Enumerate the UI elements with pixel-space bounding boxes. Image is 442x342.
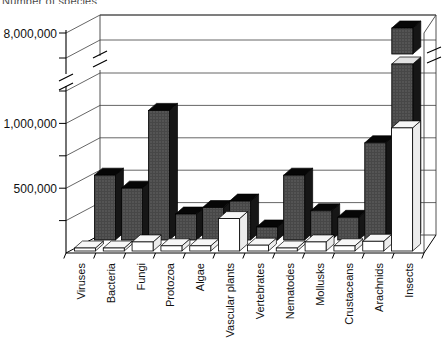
gridline-connector-1000000 xyxy=(66,105,100,123)
species-counts-3d-bar-chart-figure: Number of species 500,0001,000,0008,000,… xyxy=(0,0,442,342)
gridline-connector-8000000 xyxy=(66,15,100,33)
bar-white-front-row-vascular-plants xyxy=(219,212,248,251)
break-slash-4 xyxy=(427,57,441,63)
x-tick-6 xyxy=(243,253,245,259)
bar-dark-back-row-protozoa xyxy=(176,207,205,240)
y-axis-label-1000000: 1,000,000 xyxy=(4,117,58,131)
category-label-bacteria: Bacteria xyxy=(105,262,117,303)
category-label-viruses: Viruses xyxy=(75,263,87,300)
bar-dark-back-row-crustaceans xyxy=(338,210,367,240)
bar-dark-back-row-vertebrates xyxy=(257,220,286,240)
x-tick-7 xyxy=(273,253,275,259)
bar-dark-back-row-nematodes xyxy=(284,168,313,240)
category-axis: VirusesBacteriaFungiProtozoaAlgaeVascula… xyxy=(64,253,424,337)
x-tick-9 xyxy=(332,253,334,259)
category-label-crustaceans: Crustaceans xyxy=(343,263,355,325)
break-slash-1 xyxy=(59,74,73,81)
bar-dark-back-row-bacteria xyxy=(121,181,150,240)
category-label-vertebrates: Vertebrates xyxy=(254,263,266,320)
cropped-caption-fragment: Number of species xyxy=(2,0,98,4)
x-tick-11 xyxy=(392,253,394,259)
x-tick-12 xyxy=(422,253,424,259)
gridline-connector-750000 xyxy=(66,138,100,156)
gridline-connector-1250000 xyxy=(66,73,100,91)
3d-bar-chart: 500,0001,000,0008,000,000VirusesBacteria… xyxy=(0,0,442,342)
x-tick-5 xyxy=(213,253,215,259)
category-label-mollusks: Mollusks xyxy=(314,263,326,306)
y-axis-label-500000: 500,000 xyxy=(14,182,58,196)
bar-white-front-row-insects xyxy=(392,121,421,251)
x-tick-0 xyxy=(64,253,66,259)
bar-dark-back-row-arachnids xyxy=(365,136,394,240)
category-label-nematodes: Nematodes xyxy=(284,263,296,320)
y-axis-label-8000000: 8,000,000 xyxy=(4,27,58,41)
bar-dark-back-row-mollusks xyxy=(311,204,340,240)
category-label-algae: Algae xyxy=(194,263,206,291)
cropped-caption-text: Number of species xyxy=(2,0,97,4)
bar-dark-back-row-fungi xyxy=(148,103,177,240)
y-axis: 500,0001,000,0008,000,000 xyxy=(4,27,66,254)
break-slash-5 xyxy=(427,47,441,53)
gridline-connector-7000000 xyxy=(66,40,100,58)
x-tick-4 xyxy=(183,253,185,259)
x-tick-3 xyxy=(153,253,155,259)
category-label-insects: Insects xyxy=(403,263,415,298)
axis-break-marks xyxy=(59,47,441,90)
category-label-vascular-plants: Vascular plants xyxy=(224,263,236,338)
x-tick-8 xyxy=(302,253,304,259)
category-label-fungi: Fungi xyxy=(135,263,147,291)
category-label-arachnids: Arachnids xyxy=(373,263,385,312)
x-tick-1 xyxy=(94,253,96,259)
x-tick-10 xyxy=(362,253,364,259)
category-label-protozoa: Protozoa xyxy=(164,262,176,307)
bars xyxy=(74,21,420,251)
side-wall-top-edge xyxy=(424,15,436,33)
bar-dark-back-row-viruses xyxy=(94,168,123,240)
x-tick-2 xyxy=(123,253,125,259)
break-slash-2 xyxy=(93,60,107,67)
